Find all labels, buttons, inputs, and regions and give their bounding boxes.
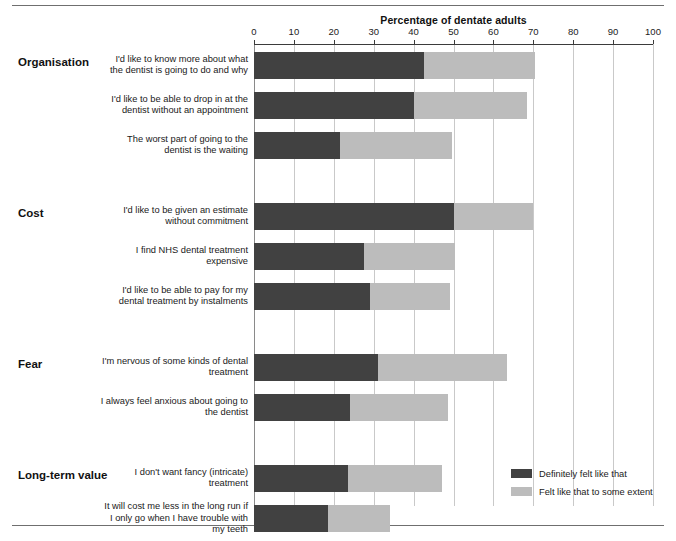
bar-row[interactable]	[254, 92, 653, 119]
bar-segment-definitely	[254, 52, 424, 79]
bar-segment-some-extent	[340, 132, 452, 159]
statement-labels: I'd like to know more about whatthe dent…	[24, 44, 248, 506]
statement-label-line: I don't want fancy (intricate)	[33, 467, 248, 479]
x-tick-label-0: 0	[251, 26, 256, 37]
statement-label-line: dentist without an appointment	[33, 105, 248, 117]
bar-segment-definitely	[254, 283, 370, 310]
statement-label: The worst part of going to thedentist is…	[33, 134, 248, 157]
bar-row[interactable]	[254, 354, 653, 381]
bar-segment-some-extent	[364, 243, 456, 270]
bar-segment-some-extent	[414, 92, 528, 119]
statement-label-line: treatment	[33, 367, 248, 379]
legend-swatch-icon	[511, 469, 532, 478]
x-tick-mark-30	[374, 40, 375, 44]
bar-segment-definitely	[254, 394, 350, 421]
statement-label-line: dental treatment by instalments	[33, 296, 248, 308]
figure-container: Percentage of dentate adults 01020304050…	[0, 0, 676, 541]
statement-label-line: expensive	[33, 256, 248, 268]
bar-segment-some-extent	[454, 203, 534, 230]
legend-item[interactable]: Definitely felt like that	[511, 466, 671, 481]
statement-label-line: the dentist is going to do and why	[33, 65, 248, 77]
x-tick-label-100: 100	[645, 26, 661, 37]
statement-label: I don't want fancy (intricate)treatment	[33, 467, 248, 490]
x-tick-mark-50	[454, 40, 455, 44]
x-tick-label-10: 10	[289, 26, 300, 37]
statement-label: I'd like to know more about whatthe dent…	[33, 54, 248, 77]
x-tick-mark-60	[493, 40, 494, 44]
x-axis-title: Percentage of dentate adults	[254, 14, 653, 26]
bar-segment-some-extent	[424, 52, 536, 79]
statement-label: I always feel anxious about going tothe …	[33, 396, 248, 419]
statement-label-line: I only go when I have trouble with	[33, 513, 248, 525]
bar-segment-some-extent	[370, 283, 450, 310]
statement-label: I'd like to be given an estimatewithout …	[33, 205, 248, 228]
statement-label-line: I'm nervous of some kinds of dental	[33, 356, 248, 368]
x-tick-label-20: 20	[329, 26, 340, 37]
statement-label-line: The worst part of going to the	[33, 134, 248, 146]
legend-swatch-icon	[511, 487, 532, 496]
x-tick-label-30: 30	[368, 26, 379, 37]
legend-label: Felt like that to some extent	[539, 487, 653, 497]
x-tick-label-70: 70	[528, 26, 539, 37]
statement-label: I find NHS dental treatmentexpensive	[33, 245, 248, 268]
statement-label-line: without commitment	[33, 216, 248, 228]
statement-label: It will cost me less in the long run ifI…	[33, 501, 248, 536]
legend-item[interactable]: Felt like that to some extent	[511, 484, 671, 499]
x-tick-mark-80	[573, 40, 574, 44]
bar-row[interactable]	[254, 203, 653, 230]
statement-label-line: I'd like to be given an estimate	[33, 205, 248, 217]
legend-label: Definitely felt like that	[539, 469, 627, 479]
statement-label-line: I'd like to know more about what	[33, 54, 248, 66]
bar-segment-some-extent	[328, 505, 390, 532]
bar-row[interactable]	[254, 132, 653, 159]
x-tick-mark-100	[653, 40, 654, 44]
chart-legend: Definitely felt like thatFelt like that …	[511, 466, 671, 502]
bar-segment-definitely	[254, 505, 328, 532]
bar-segment-definitely	[254, 203, 454, 230]
x-tick-label-90: 90	[608, 26, 619, 37]
gridline-100	[653, 44, 654, 506]
statement-label-line: treatment	[33, 478, 248, 490]
bar-segment-some-extent	[348, 465, 442, 492]
bar-row[interactable]	[254, 243, 653, 270]
bar-row[interactable]	[254, 52, 653, 79]
statement-label-line: I always feel anxious about going to	[33, 396, 248, 408]
statement-label-line: I find NHS dental treatment	[33, 245, 248, 257]
plot-area	[254, 44, 653, 506]
statement-label-line: the dentist	[33, 407, 248, 419]
bar-segment-some-extent	[350, 394, 448, 421]
bar-segment-definitely	[254, 354, 378, 381]
bar-row[interactable]	[254, 394, 653, 421]
statement-label: I'd like to be able to drop in at theden…	[33, 94, 248, 117]
bar-segment-some-extent	[378, 354, 508, 381]
statement-label: I'd like to be able to pay for mydental …	[33, 285, 248, 308]
x-tick-label-40: 40	[408, 26, 419, 37]
bar-row[interactable]	[254, 283, 653, 310]
bar-segment-definitely	[254, 132, 340, 159]
statement-label-line: I'd like to be able to drop in at the	[33, 94, 248, 106]
statement-label-line: I'd like to be able to pay for my	[33, 285, 248, 297]
bar-segment-definitely	[254, 465, 348, 492]
x-tick-mark-40	[414, 40, 415, 44]
x-tick-mark-0	[254, 40, 255, 44]
x-axis-line	[254, 44, 653, 45]
statement-label: I'm nervous of some kinds of dentaltreat…	[33, 356, 248, 379]
x-tick-mark-20	[334, 40, 335, 44]
statement-label-line: dentist is the waiting	[33, 145, 248, 157]
x-tick-label-60: 60	[488, 26, 499, 37]
x-tick-mark-10	[294, 40, 295, 44]
x-tick-label-80: 80	[568, 26, 579, 37]
top-rule	[12, 5, 664, 6]
bar-segment-definitely	[254, 92, 414, 119]
bar-segment-definitely	[254, 243, 364, 270]
statement-label-line: my teeth	[33, 524, 248, 536]
x-tick-label-50: 50	[448, 26, 459, 37]
bar-row[interactable]	[254, 505, 653, 532]
statement-label-line: It will cost me less in the long run if	[33, 501, 248, 513]
x-tick-mark-90	[613, 40, 614, 44]
x-tick-mark-70	[533, 40, 534, 44]
